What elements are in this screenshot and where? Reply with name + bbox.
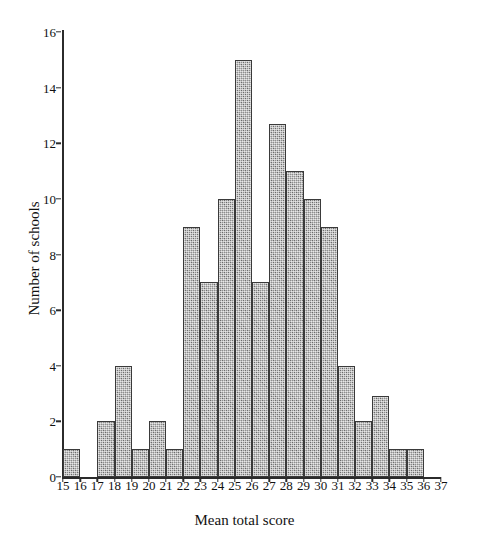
- x-axis-tick-mark: [114, 477, 115, 482]
- y-axis-tick-mark: [56, 421, 61, 422]
- histogram-bar: [304, 199, 321, 477]
- x-axis-tick-mark: [183, 477, 184, 482]
- y-axis-tick-label: 12: [43, 137, 56, 150]
- x-axis-tick-mark: [268, 477, 269, 482]
- y-axis-tick-mark: [56, 309, 61, 310]
- histogram-bar: [218, 199, 235, 477]
- x-axis-title: Mean total score: [0, 512, 489, 529]
- histogram-bar: [355, 421, 372, 477]
- y-axis-tick-mark: [56, 143, 61, 144]
- x-axis-tick-mark: [148, 477, 149, 482]
- histogram-figure: 0246810121416 15161718192021222324252627…: [0, 0, 489, 551]
- x-axis-tick-mark: [423, 477, 424, 482]
- x-axis-tick-mark: [97, 477, 98, 482]
- bars-container: [63, 32, 441, 477]
- histogram-bar: [321, 227, 338, 477]
- x-axis-tick-mark: [62, 477, 63, 482]
- y-axis-tick-mark: [56, 31, 61, 32]
- y-axis-tick-label: 16: [43, 26, 56, 39]
- x-axis-tick-mark: [286, 477, 287, 482]
- x-axis-tick-mark: [406, 477, 407, 482]
- histogram-bar: [183, 227, 200, 477]
- histogram-bar: [235, 60, 252, 477]
- y-axis-tick-mark: [56, 365, 61, 366]
- y-axis-tick-mark: [56, 87, 61, 88]
- histogram-bar: [97, 421, 114, 477]
- y-axis-tick-label: 10: [43, 192, 56, 205]
- x-axis-tick-mark: [217, 477, 218, 482]
- x-axis-tick-mark: [440, 477, 441, 482]
- y-axis-tick-mark: [56, 254, 61, 255]
- histogram-bar: [338, 366, 355, 477]
- histogram-bar: [286, 171, 303, 477]
- y-axis-title: Number of schools: [26, 129, 43, 389]
- x-axis-tick-mark: [251, 477, 252, 482]
- x-axis-tick-mark: [234, 477, 235, 482]
- y-axis-tick-label: 14: [43, 81, 56, 94]
- x-axis-tick-mark: [320, 477, 321, 482]
- y-axis-tick-mark: [56, 198, 61, 199]
- histogram-bar: [115, 366, 132, 477]
- histogram-bar: [372, 396, 389, 477]
- histogram-bar: [200, 282, 217, 477]
- histogram-bar: [252, 282, 269, 477]
- histogram-bar: [149, 421, 166, 477]
- x-axis-tick-mark: [372, 477, 373, 482]
- x-axis-tick-mark: [165, 477, 166, 482]
- histogram-bar: [389, 449, 406, 477]
- histogram-bar: [132, 449, 149, 477]
- x-axis-tick-mark: [303, 477, 304, 482]
- histogram-bar: [63, 449, 80, 477]
- x-axis-tick-mark: [131, 477, 132, 482]
- x-axis-tick-mark: [354, 477, 355, 482]
- histogram-bar: [166, 449, 183, 477]
- histogram-bar: [269, 124, 286, 477]
- x-axis-tick-mark: [79, 477, 80, 482]
- histogram-bar: [407, 449, 424, 477]
- x-axis-tick-mark: [389, 477, 390, 482]
- x-axis-tick-mark: [337, 477, 338, 482]
- x-axis-tick-mark: [200, 477, 201, 482]
